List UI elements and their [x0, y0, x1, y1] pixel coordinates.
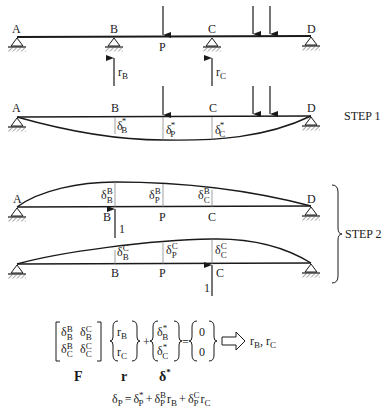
result-reactions: rB,rC	[250, 334, 276, 350]
pin-support-icon	[105, 38, 123, 52]
force-method-diagram: A B P C D rB rC A B C D δ*B δ*P δ*C STEP…	[0, 0, 389, 418]
point-label-a: A	[13, 192, 22, 206]
point-label-c: C	[216, 266, 224, 280]
delta-p-c: δCP	[166, 241, 178, 260]
point-label-c: C	[208, 22, 216, 36]
step2-label: STEP 2	[345, 227, 382, 241]
delta-star-b: δ*B	[157, 323, 168, 342]
delta-c-c: δCC	[215, 241, 227, 260]
unit-load-label: 1	[119, 222, 125, 236]
final-equation: δP=δ*P+δBPrB+δCPrC	[112, 390, 211, 408]
deflected-shape	[17, 116, 311, 140]
deflected-shape	[17, 182, 311, 207]
point-label-d: D	[307, 101, 316, 115]
r-b: rB	[117, 325, 127, 341]
pin-support-icon	[8, 38, 26, 52]
delta-p-star: δ*P	[166, 120, 176, 139]
point-label-b: B	[103, 210, 111, 224]
point-label-c: C	[209, 101, 217, 115]
reaction-label-rc: rC	[216, 65, 226, 81]
point-label-b: B	[110, 22, 118, 36]
label-r: r	[121, 369, 127, 384]
step2-case-b: 1 A D B P C δBB δBP δBC	[8, 182, 320, 238]
step2-case-c: 1 B P C δCB δCP δCC	[8, 239, 320, 296]
delta-p-b: δBP	[149, 186, 161, 205]
point-label-b: B	[111, 266, 119, 280]
pin-support-icon	[302, 207, 320, 221]
label-delta-star: δ*	[159, 367, 171, 384]
equals-sign: =	[182, 335, 189, 349]
f-cc: δCC	[80, 341, 92, 359]
delta-b-c: δCB	[117, 243, 129, 262]
zero: 0	[199, 345, 205, 359]
delta-c-b: δBC	[198, 186, 210, 205]
original-beam: A B P C D rB rC	[8, 6, 320, 86]
point-label-a: A	[12, 22, 21, 36]
point-label-d: D	[307, 192, 316, 206]
point-label-p: P	[159, 40, 166, 54]
compatibility-equation: δBB δCB δBC δCC rB rC + δ*B δ*C = 0 0 rB…	[56, 321, 276, 408]
delta-b-star: δ*B	[117, 116, 127, 135]
point-label-b: B	[111, 101, 119, 115]
point-label-p: P	[159, 266, 166, 280]
deflected-shape	[17, 239, 311, 264]
point-label-p: P	[159, 210, 166, 224]
point-label-c: C	[208, 210, 216, 224]
pin-support-icon	[302, 264, 320, 278]
r-c: rC	[117, 345, 127, 361]
f-bb: δBB	[61, 324, 73, 342]
pin-support-icon	[8, 118, 26, 132]
step1-beam: A B C D δ*B δ*P δ*C STEP 1	[8, 86, 381, 140]
plus-sign: +	[143, 335, 150, 349]
pin-support-icon	[8, 208, 26, 222]
delta-star-c: δ*C	[157, 342, 168, 361]
implies-arrow-icon	[222, 332, 245, 350]
delta-c-star: δ*C	[215, 120, 225, 139]
zero: 0	[199, 325, 205, 339]
pin-support-icon	[203, 38, 221, 52]
pin-support-icon	[302, 37, 320, 51]
unit-load-label: 1	[204, 281, 210, 295]
brace-icon	[332, 185, 342, 283]
step1-label: STEP 1	[344, 109, 381, 123]
pin-support-icon	[8, 265, 26, 279]
delta-b-b: δBB	[101, 186, 113, 205]
f-cb: δCB	[80, 324, 92, 342]
label-f: F	[74, 369, 83, 384]
point-label-d: D	[307, 22, 316, 36]
reaction-label-rb: rB	[118, 65, 128, 81]
f-bc: δBC	[61, 341, 73, 359]
point-label-a: A	[12, 101, 21, 115]
